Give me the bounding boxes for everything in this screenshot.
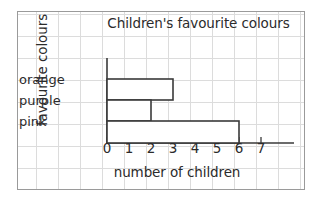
x-tick-label-7: 7: [250, 140, 272, 156]
x-axis-title: number of children: [82, 164, 272, 180]
chart-figure: Children's favourite colours favourite c…: [17, 11, 305, 190]
x-tick-label-4: 4: [184, 140, 206, 156]
x-tick-label-3: 3: [162, 140, 184, 156]
bar-orange: [107, 79, 173, 100]
x-tick-label-2: 2: [140, 140, 162, 156]
x-tick-label-6: 6: [228, 140, 250, 156]
bar-purple: [107, 100, 151, 121]
x-tick-label-5: 5: [206, 140, 228, 156]
x-tick-label-0: 0: [96, 140, 118, 156]
x-tick-label-1: 1: [118, 140, 140, 156]
